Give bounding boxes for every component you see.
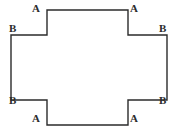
label-a-bottom-left: A bbox=[32, 113, 40, 124]
cross-shape-figure: A A B B B B A A bbox=[0, 0, 177, 138]
label-a-top-right: A bbox=[130, 3, 138, 14]
label-b-top-right: B bbox=[159, 23, 166, 34]
label-a-top-left: A bbox=[32, 3, 40, 14]
label-a-bottom-right: A bbox=[130, 113, 138, 124]
label-b-top-left: B bbox=[9, 23, 16, 34]
cross-outline-graphic bbox=[0, 0, 177, 138]
label-b-bottom-right: B bbox=[159, 95, 166, 106]
label-b-bottom-left: B bbox=[9, 95, 16, 106]
